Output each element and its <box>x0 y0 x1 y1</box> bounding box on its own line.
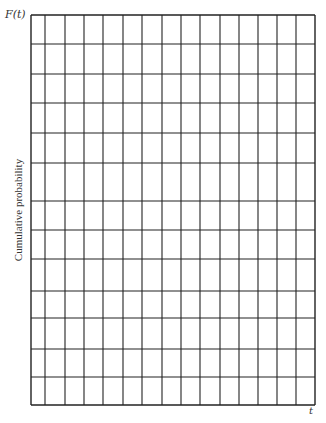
grid-lines <box>0 0 326 423</box>
y-axis-label: Cumulative probability <box>12 159 24 261</box>
y-axis-symbol: F(t) <box>5 9 26 21</box>
probability-grid-chart: F(t) Cumulative probability t <box>0 0 326 423</box>
x-axis-symbol: t <box>309 405 313 416</box>
